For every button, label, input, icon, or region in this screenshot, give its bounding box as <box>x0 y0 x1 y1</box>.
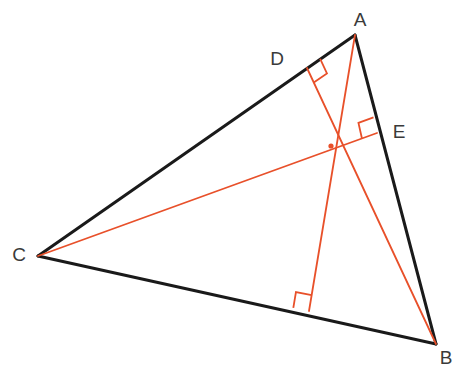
geometry-canvas: A B C D E <box>0 0 458 370</box>
orthocenter-dot <box>328 143 333 148</box>
vertex-label-D: D <box>270 48 284 69</box>
altitude-A-to-F <box>309 35 355 311</box>
vertex-label-B: B <box>440 347 453 368</box>
side-AB <box>355 35 436 344</box>
altitude-C-to-E <box>38 133 377 256</box>
altitudes <box>38 35 436 344</box>
vertex-label-A: A <box>354 9 367 30</box>
vertex-labels: A B C D E <box>12 9 452 368</box>
geometry-diagram: A B C D E <box>0 0 458 370</box>
side-CB <box>38 256 436 344</box>
triangle-sides <box>38 35 436 344</box>
vertex-label-C: C <box>12 244 26 265</box>
vertex-label-E: E <box>393 121 406 142</box>
right-angle-at-F <box>293 292 311 308</box>
